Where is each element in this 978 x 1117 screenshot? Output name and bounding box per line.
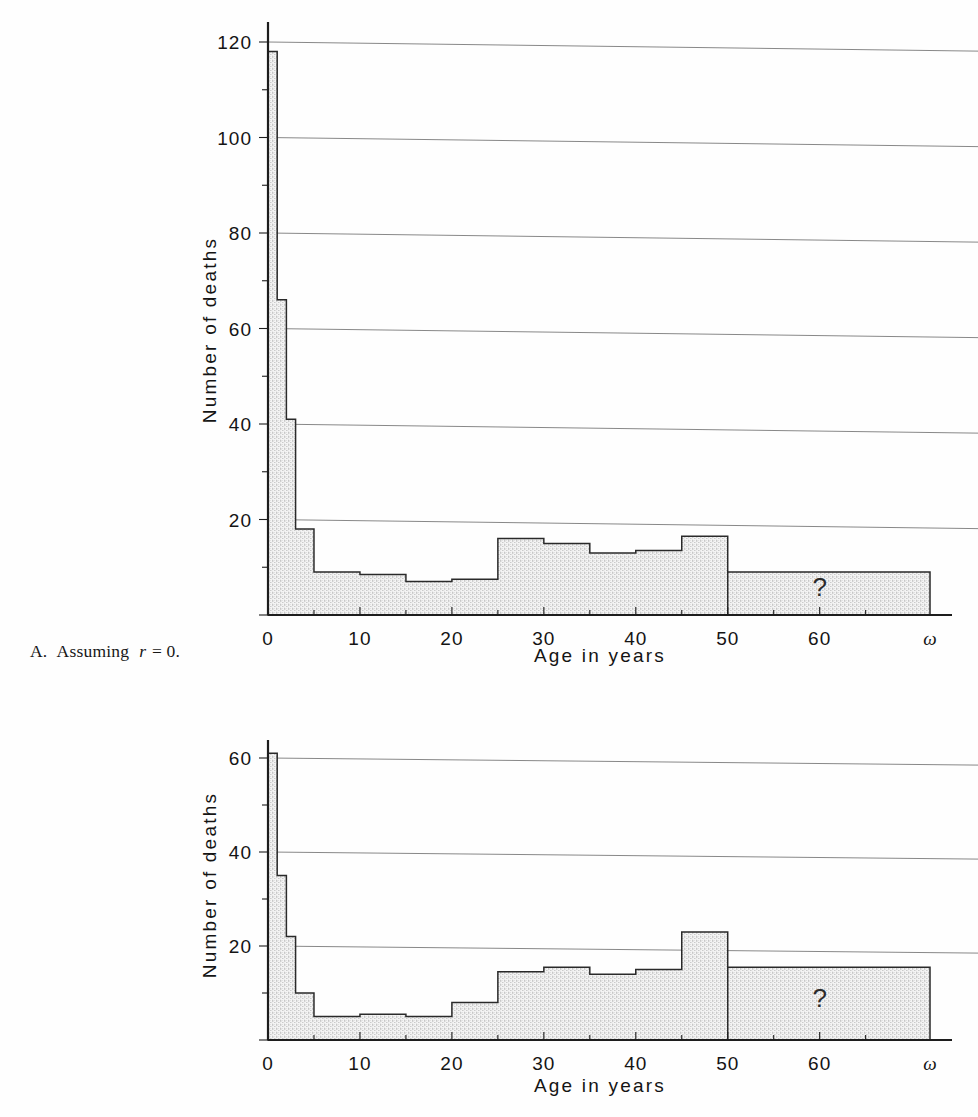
y-tick-label: 100	[217, 128, 252, 149]
gridline	[268, 852, 978, 859]
x-axis-title: Age in years	[534, 645, 666, 666]
histogram-area	[268, 753, 930, 1040]
x-tick-label: 40	[624, 1053, 647, 1074]
caption-a: A. Assuming r = 0.	[30, 641, 180, 662]
gridline	[268, 138, 978, 147]
omega-label: ω	[923, 628, 936, 649]
panel-a: 0102030405060ω20406080100120Age in years…	[0, 0, 978, 700]
caption-a-var: r	[138, 641, 147, 661]
gridline	[268, 329, 978, 338]
caption-a-prefix: A.	[30, 641, 47, 661]
gridline	[268, 233, 978, 242]
y-tick-label: 20	[229, 510, 252, 531]
x-axis-title: Age in years	[534, 1075, 666, 1096]
y-tick-label: 40	[229, 842, 252, 863]
gridlines-a	[268, 42, 978, 529]
x-tick-label: 50	[716, 628, 739, 649]
x-tick-label: 50	[716, 1053, 739, 1074]
axis-labels-b: 0102030405060ω204060Age in yearsNumber o…	[199, 748, 937, 1096]
x-tick-label: 10	[348, 628, 371, 649]
caption-a-value: 0.	[167, 641, 181, 661]
axes-a	[259, 22, 952, 615]
unknown-annotation: ?	[812, 572, 826, 602]
gridline	[268, 424, 978, 433]
y-axis-title: Number of deaths	[199, 792, 220, 978]
y-tick-label: 60	[229, 748, 252, 769]
panel-b: 0102030405060ω204060Age in yearsNumber o…	[0, 700, 978, 1117]
y-tick-label: 40	[229, 414, 252, 435]
y-tick-label: 60	[229, 319, 252, 340]
unknown-annotation: ?	[812, 983, 826, 1013]
histogram-a	[268, 52, 930, 615]
caption-a-word: Assuming	[57, 641, 130, 661]
x-tick-label: 10	[348, 1053, 371, 1074]
gridlines-b	[268, 758, 978, 953]
gridline	[268, 946, 978, 953]
y-tick-label: 80	[229, 223, 252, 244]
y-axis-title: Number of deaths	[199, 237, 220, 423]
x-tick-label: 20	[440, 628, 463, 649]
x-tick-label: 0	[262, 628, 274, 649]
gridline	[268, 758, 978, 765]
x-tick-label: 30	[532, 1053, 555, 1074]
chart-a: 0102030405060ω20406080100120Age in years…	[0, 0, 978, 700]
histogram-b	[268, 753, 930, 1040]
x-tick-label: 20	[440, 1053, 463, 1074]
figure-page: 0102030405060ω20406080100120Age in years…	[0, 0, 978, 1117]
histogram-area	[268, 52, 930, 615]
gridline	[268, 520, 978, 529]
x-tick-label: 60	[808, 628, 831, 649]
chart-b: 0102030405060ω204060Age in yearsNumber o…	[0, 700, 978, 1117]
y-tick-label: 120	[217, 32, 252, 53]
caption-a-eq: =	[152, 641, 162, 661]
x-tick-label: 60	[808, 1053, 831, 1074]
gridline	[268, 42, 978, 51]
x-tick-label: 0	[262, 1053, 274, 1074]
omega-label: ω	[923, 1053, 936, 1074]
y-tick-label: 20	[229, 936, 252, 957]
